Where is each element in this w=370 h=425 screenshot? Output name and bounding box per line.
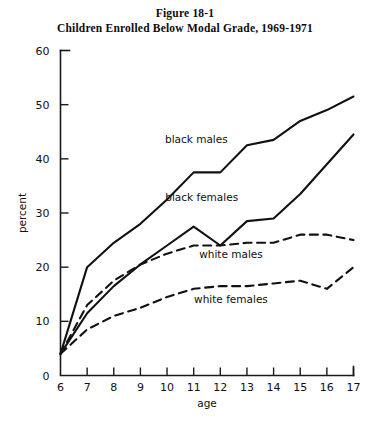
y-tick-label: 20 [36,261,50,274]
chart-series-labels: black malesblack femaleswhite maleswhite… [165,133,268,306]
series-label-white-females: white females [194,293,268,305]
series-line-white-females [61,267,354,354]
x-tick-label: 12 [213,381,227,394]
y-tick-label: 0 [43,370,50,383]
x-tick-label: 15 [293,381,307,394]
y-tick-label: 30 [36,207,50,220]
y-axis-title: percent [16,193,28,233]
x-tick-label: 10 [160,381,174,394]
x-tick-label: 13 [240,381,254,394]
chart-ticks [61,105,354,376]
series-label-black-males: black males [165,133,228,145]
y-tick-label: 60 [36,45,50,58]
line-chart: 010203040506067891011121314151617 black … [0,0,370,425]
y-tick-label: 10 [36,315,50,328]
x-tick-label: 14 [267,381,281,394]
axis-lines [61,51,354,376]
figure-container: Figure 18-1 Children Enrolled Below Moda… [0,0,370,425]
x-tick-label: 8 [110,381,117,394]
x-axis-title: age [197,397,217,409]
series-label-black-females: black females [165,191,238,203]
chart-tick-labels: 010203040506067891011121314151617 [36,45,361,394]
series-label-white-males: white males [199,248,263,260]
y-tick-label: 50 [36,99,50,112]
x-tick-label: 6 [57,381,64,394]
x-tick-label: 16 [320,381,334,394]
x-tick-label: 7 [84,381,91,394]
y-tick-label: 40 [36,153,50,166]
x-tick-label: 11 [187,381,201,394]
x-tick-label: 9 [137,381,144,394]
chart-axes [61,51,354,376]
x-tick-label: 17 [347,381,361,394]
